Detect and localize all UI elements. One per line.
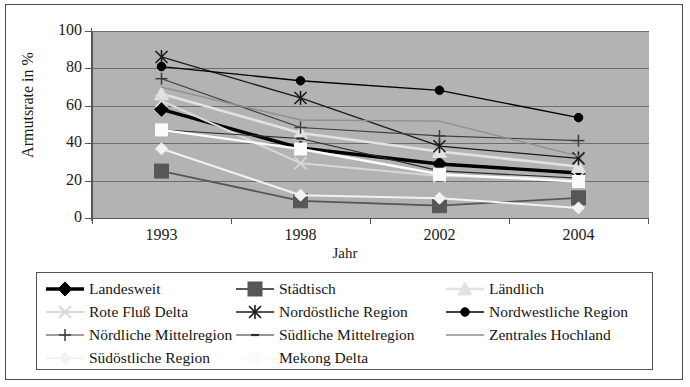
legend-item-l-ndlich[interactable]: Ländlich [443, 277, 648, 300]
legend-label: Rote Fluß Delta [87, 304, 188, 320]
legend-item-n-rdliche-mittelregion[interactable]: Nördliche Mittelregion [37, 323, 233, 346]
legend-item-s-d-stliche-region[interactable]: Südöstliche Region [37, 346, 233, 369]
legend-label: Südöstliche Region [87, 350, 210, 366]
legend-item-landesweit[interactable]: Landesweit [37, 277, 233, 300]
legend-item-rote-flu-delta[interactable]: Rote Fluß Delta [37, 300, 233, 323]
chart-page: 020406080100 1993199820022004 Armutsrate… [0, 0, 690, 387]
legend-swatch-icon [43, 326, 87, 344]
series-2 [155, 87, 586, 173]
legend-swatch-icon [43, 349, 87, 367]
legend-label: Landesweit [87, 281, 160, 297]
legend-row: LandesweitStädtischLändlich [37, 277, 652, 300]
legend-swatch-icon [233, 349, 277, 367]
legend-item-st-dtisch[interactable]: Städtisch [233, 277, 443, 300]
legend-item-mekong-delta[interactable]: Mekong Delta [233, 346, 443, 369]
legend-label: Ländlich [487, 281, 544, 297]
legend-row: Rote Fluß DeltaNordöstliche RegionNordwe… [37, 300, 652, 323]
legend-swatch-icon [43, 303, 87, 321]
series-layer [0, 0, 690, 265]
series-1 [155, 164, 586, 213]
legend-label: Zentrales Hochland [487, 327, 611, 343]
legend-label: Städtisch [277, 281, 336, 297]
legend-swatch-icon [233, 326, 277, 344]
legend-label: Nordöstliche Region [277, 304, 408, 320]
legend-swatch-icon [443, 326, 487, 344]
legend-item-zentrales-hochland[interactable]: Zentrales Hochland [443, 323, 648, 346]
legend-row: Nördliche MittelregionSüdliche Mittelreg… [37, 323, 652, 346]
legend-swatch-icon [443, 303, 487, 321]
legend-swatch-icon [443, 280, 487, 298]
chart-region: 020406080100 1993199820022004 Armutsrate… [0, 0, 690, 265]
legend-grid: LandesweitStädtischLändlichRote Fluß Del… [37, 277, 652, 369]
series-5 [157, 62, 583, 122]
legend-item-empty [443, 346, 648, 369]
legend-label: Mekong Delta [277, 350, 368, 366]
legend: LandesweitStädtischLändlichRote Fluß Del… [36, 272, 653, 370]
series-4 [156, 50, 585, 165]
legend-swatch-icon [443, 349, 487, 367]
legend-item-s-dliche-mittelregion[interactable]: Südliche Mittelregion [233, 323, 443, 346]
legend-swatch-icon [233, 303, 277, 321]
legend-label: Südliche Mittelregion [277, 327, 415, 343]
legend-item-nordwestliche-region[interactable]: Nordwestliche Region [443, 300, 648, 323]
legend-swatch-icon [233, 280, 277, 298]
legend-item-nord-stliche-region[interactable]: Nordöstliche Region [233, 300, 443, 323]
legend-swatch-icon [43, 280, 87, 298]
legend-label: Nordwestliche Region [487, 304, 628, 320]
legend-label: Nördliche Mittelregion [87, 327, 232, 343]
legend-row: Südöstliche RegionMekong Delta [37, 346, 652, 369]
